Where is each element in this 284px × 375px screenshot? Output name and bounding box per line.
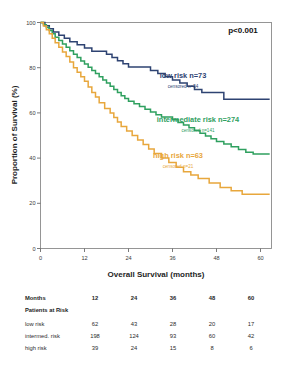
x-tick-label: 12 xyxy=(81,255,87,261)
risk-table-row-label: low risk xyxy=(25,321,44,327)
risk-table-row-label: intermed. risk xyxy=(25,333,60,339)
risk-table-col-header: 48 xyxy=(209,295,216,301)
series-censored-high-risk: censored n=21 xyxy=(163,164,194,169)
series-label-high-risk: high risk n=63 xyxy=(153,151,203,160)
y-tick-label: 20 xyxy=(29,200,35,206)
y-tick-label: 40 xyxy=(29,155,35,161)
risk-table-row-label: high risk xyxy=(25,345,47,351)
series-censored-low-risk: censored n=54 xyxy=(168,84,199,89)
pvalue-annotation: p<0.001 xyxy=(228,26,258,35)
y-tick-label: 60 xyxy=(29,110,35,116)
y-tick-label: 0 xyxy=(32,246,35,252)
risk-table-col-header: 36 xyxy=(170,295,177,301)
risk-table-cell: 42 xyxy=(248,333,254,339)
y-tick-label: 100 xyxy=(26,20,35,26)
risk-table-col-header: 24 xyxy=(131,295,138,301)
x-tick-label: 0 xyxy=(39,255,42,261)
series-label-low-risk: low risk n=73 xyxy=(160,71,207,80)
x-tick-label: 48 xyxy=(213,255,219,261)
risk-table-cell: 124 xyxy=(129,333,139,339)
x-axis-title: Overall Survival (months) xyxy=(108,270,205,279)
risk-table-cell: 39 xyxy=(92,345,98,351)
risk-table-cell: 62 xyxy=(92,321,98,327)
y-axis-title: Proportion of Survival (%) xyxy=(10,85,19,184)
risk-table-cell: 28 xyxy=(170,321,176,327)
risk-table-cell: 60 xyxy=(209,333,215,339)
x-tick-label: 24 xyxy=(125,255,131,261)
risk-table-col-header: 60 xyxy=(248,295,254,301)
x-tick-label: 36 xyxy=(169,255,175,261)
risk-table-cell: 43 xyxy=(131,321,137,327)
risk-table-cell: 17 xyxy=(248,321,254,327)
series-label-intermediate-risk: intermediate risk n=274 xyxy=(157,115,240,124)
risk-table-cell: 8 xyxy=(210,345,213,351)
risk-table-cell: 6 xyxy=(249,345,252,351)
series-censored-intermediate-risk: censored n=141 xyxy=(181,128,215,133)
risk-table-cell: 198 xyxy=(90,333,100,339)
risk-table-cell: 20 xyxy=(209,321,215,327)
figure-background xyxy=(0,0,284,375)
y-tick-label: 80 xyxy=(29,65,35,71)
risk-table-subheader: Patients at Risk xyxy=(25,307,69,313)
risk-table-cell: 93 xyxy=(170,333,176,339)
risk-table-cell: 15 xyxy=(170,345,176,351)
kaplan-meier-figure: 020406080100 Proportion of Survival (%) … xyxy=(0,0,284,375)
risk-table-months-label: Months xyxy=(25,295,46,301)
risk-table-cell: 24 xyxy=(131,345,138,351)
x-tick-label: 60 xyxy=(257,255,263,261)
risk-table-col-header: 12 xyxy=(92,295,98,301)
